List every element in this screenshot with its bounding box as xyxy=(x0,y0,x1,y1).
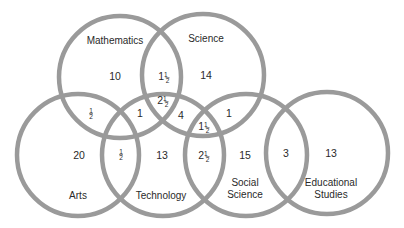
label-science: Science xyxy=(188,33,224,44)
region-values: 10112142121214111220121321215313 xyxy=(73,69,337,163)
label-social-science: Social xyxy=(231,177,258,188)
region-value-social-edu: 3 xyxy=(283,147,289,159)
label-mathematics: Mathematics xyxy=(87,35,144,46)
region-value-social-only: 15 xyxy=(239,149,251,161)
label-educational-studies: Studies xyxy=(314,189,347,200)
label-arts: Arts xyxy=(69,190,87,201)
label-technology: Technology xyxy=(136,190,187,201)
region-value-science-social: 1 xyxy=(226,107,232,119)
label-social-science: Science xyxy=(227,189,263,200)
region-value-science-tech: 4 xyxy=(178,109,184,121)
region-value-math-tech: 1 xyxy=(137,107,143,119)
region-value-tech-only: 13 xyxy=(156,149,168,161)
region-value-science-only: 14 xyxy=(200,69,212,81)
label-educational-studies: Educational xyxy=(305,177,357,188)
region-value-arts-only: 20 xyxy=(73,149,85,161)
venn-diagram: MathematicsScienceArtsTechnologySocialSc… xyxy=(0,0,404,228)
region-value-edu-only: 13 xyxy=(325,147,337,159)
region-value-math-only: 10 xyxy=(109,70,121,82)
